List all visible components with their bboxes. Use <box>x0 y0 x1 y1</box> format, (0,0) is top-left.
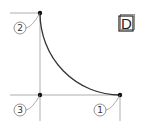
badge-letter: D <box>121 15 132 32</box>
callout-3-label: 3 <box>17 105 23 115</box>
callout-2: 2 <box>14 22 26 34</box>
leader-3 <box>26 95 40 110</box>
callout-2-label: 2 <box>17 23 23 33</box>
callout-3: 3 <box>14 104 26 116</box>
leader-2 <box>26 13 40 28</box>
callout-1: 1 <box>94 104 106 116</box>
callout-1-label: 1 <box>97 105 103 115</box>
view-badge-d: D <box>119 15 135 33</box>
arc-diagram: 2 3 1 D <box>0 0 141 126</box>
arc-curve <box>40 13 120 95</box>
leader-1 <box>106 95 120 110</box>
